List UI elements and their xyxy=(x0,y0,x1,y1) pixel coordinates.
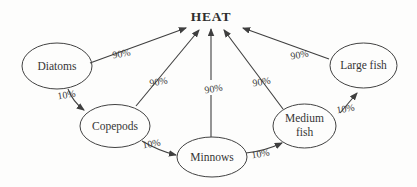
arrow-large-fish-to-heat xyxy=(243,28,329,59)
node-medium-fish-label-line1: Medium xyxy=(285,112,324,124)
label-90pct-medium-fish-heat: 90% xyxy=(252,75,272,89)
node-copepods-label: Copepods xyxy=(92,120,139,133)
label-10pct-copepods-minnows: 10% xyxy=(142,137,162,151)
label-90pct-minnows-heat: 90% xyxy=(204,82,224,96)
energy-flow-diagram: HEAT Diatoms Copepods Minnows Medium fis… xyxy=(0,0,417,187)
node-large-fish-label: Large fish xyxy=(340,59,387,72)
node-diatoms-label: Diatoms xyxy=(38,60,77,72)
node-minnows-label: Minnows xyxy=(190,151,234,163)
label-90pct-diatoms-heat: 90% xyxy=(111,47,131,61)
node-medium-fish-label-line2: fish xyxy=(296,126,314,138)
arrow-medium-fish-to-heat xyxy=(224,30,283,109)
label-10pct-medium-fish-large-fish: 10% xyxy=(336,102,356,116)
arrow-copepods-to-heat xyxy=(136,30,199,106)
heat-title: HEAT xyxy=(191,9,231,24)
arrow-diatoms-to-heat xyxy=(90,28,186,63)
label-90pct-copepods-heat: 90% xyxy=(149,75,169,89)
label-90pct-large-fish-heat: 90% xyxy=(290,48,310,62)
label-10pct-minnows-medium-fish: 10% xyxy=(251,147,271,161)
diagram-canvas: HEAT Diatoms Copepods Minnows Medium fis… xyxy=(0,0,417,187)
